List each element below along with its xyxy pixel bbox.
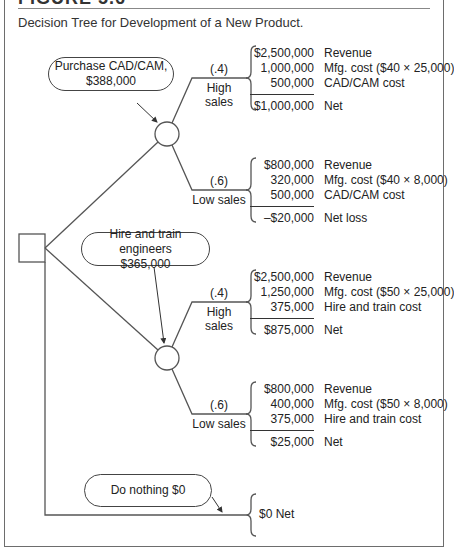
probability-label: (.4) xyxy=(191,62,247,76)
item-label: Revenue xyxy=(324,158,372,173)
amount: 500,000 xyxy=(250,188,314,203)
amount: 375,000 xyxy=(250,300,314,315)
item-label: Mfg. cost ($50 × 8,000) xyxy=(324,397,448,412)
outcome-do-nothing: $0 Net xyxy=(259,507,294,521)
decision-node xyxy=(19,234,45,262)
sum-rule xyxy=(250,94,314,95)
option-label: Purchase CAD/CAM, xyxy=(49,59,173,74)
net-label: Net loss xyxy=(324,211,367,226)
option-cost: $388,000 xyxy=(49,74,173,89)
item-label: Mfg. cost ($50 × 25,000) xyxy=(324,285,454,300)
option-label: Do nothing $0 xyxy=(85,483,211,498)
amount: 1,250,000 xyxy=(250,285,314,300)
item-label: Mfg. cost ($40 × 25,000) xyxy=(324,61,454,76)
branch-label-low-sales: Low sales xyxy=(191,193,247,207)
amount: $800,000 xyxy=(250,158,314,173)
outcome-cadcam-low: $800,000Revenue 320,000Mfg. cost ($40 × … xyxy=(250,158,448,226)
outcome-hire-high: $2,500,000Revenue 1,250,000Mfg. cost ($5… xyxy=(250,270,454,338)
net-label: Net xyxy=(324,435,343,450)
branch-label-high-sales: High sales xyxy=(191,81,247,109)
outcome-cadcam-high: $2,500,000Revenue 1,000,000Mfg. cost ($4… xyxy=(250,46,454,114)
amount: 500,000 xyxy=(250,76,314,91)
option-label: Hire and train engineers xyxy=(82,227,209,257)
net-amount: $875,000 xyxy=(250,323,314,338)
item-label: Mfg. cost ($40 × 8,000) xyxy=(324,173,448,188)
net-amount: $1,000,000 xyxy=(250,99,314,114)
probability-label: (.6) xyxy=(191,174,247,188)
net-amount: $25,000 xyxy=(250,435,314,450)
amount: 1,000,000 xyxy=(250,61,314,76)
net-label: Net xyxy=(324,323,343,338)
amount: 400,000 xyxy=(250,397,314,412)
option-hire-train-engineers: Hire and train engineers $365,000 xyxy=(81,232,210,266)
sum-rule xyxy=(250,206,314,207)
sum-rule xyxy=(250,430,314,431)
item-label: CAD/CAM cost xyxy=(324,188,405,203)
amount: 320,000 xyxy=(250,173,314,188)
item-label: Revenue xyxy=(324,382,372,397)
item-label: CAD/CAM cost xyxy=(324,76,405,91)
item-label: Hire and train cost xyxy=(324,300,421,315)
probability-label: (.4) xyxy=(191,286,247,300)
amount: $2,500,000 xyxy=(250,270,314,285)
branch-label-high-sales: High sales xyxy=(191,305,247,333)
branch-label-low-sales: Low sales xyxy=(191,417,247,431)
item-label: Revenue xyxy=(324,270,372,285)
item-label: Hire and train cost xyxy=(324,412,421,427)
item-label: Revenue xyxy=(324,46,372,61)
option-cost: $365,000 xyxy=(82,257,209,272)
amount: $800,000 xyxy=(250,382,314,397)
sum-rule xyxy=(250,318,314,319)
outcome-hire-low: $800,000Revenue 400,000Mfg. cost ($50 × … xyxy=(250,382,448,450)
net-label: Net xyxy=(324,99,343,114)
option-purchase-cadcam: Purchase CAD/CAM, $388,000 xyxy=(48,57,174,91)
amount: $2,500,000 xyxy=(250,46,314,61)
probability-label: (.6) xyxy=(191,398,247,412)
net-amount: –$20,000 xyxy=(250,211,314,226)
option-do-nothing: Do nothing $0 xyxy=(84,474,212,507)
amount: 375,000 xyxy=(250,412,314,427)
